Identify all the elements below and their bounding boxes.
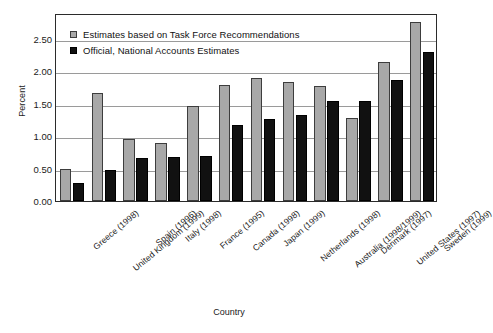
y-tick-label: 2.50 xyxy=(16,35,52,45)
bar-series-b xyxy=(168,157,180,201)
bar-series-b xyxy=(359,101,371,201)
bar-series-b xyxy=(105,170,117,201)
bar-series-a xyxy=(155,143,167,201)
bar-group xyxy=(314,15,339,201)
bar-series-a xyxy=(314,86,326,201)
y-tick-label: 0.50 xyxy=(16,165,52,175)
bar-series-a xyxy=(123,139,135,201)
bar-series-b xyxy=(264,119,276,201)
bar-series-b xyxy=(423,52,435,201)
legend-item-series-b: Official, National Accounts Estimates xyxy=(70,45,299,56)
bar-series-a xyxy=(60,169,72,201)
chart-legend: Estimates based on Task Force Recommenda… xyxy=(70,29,299,61)
bar-series-b xyxy=(327,101,339,201)
bar-group xyxy=(378,15,403,201)
bar-series-a xyxy=(378,62,390,201)
x-axis-title: Country xyxy=(0,307,458,317)
bar-series-b xyxy=(296,115,308,201)
bar-series-a xyxy=(92,93,104,201)
legend-label-series-a: Estimates based on Task Force Recommenda… xyxy=(83,29,299,40)
y-tick-label: 1.50 xyxy=(16,100,52,110)
y-tick-label: 1.00 xyxy=(16,132,52,142)
plot-area: Estimates based on Task Force Recommenda… xyxy=(55,14,437,202)
x-axis-tick-labels: Greece (1998)United Kingdom (1999)Spain … xyxy=(55,202,437,297)
bar-series-a xyxy=(346,118,358,201)
bar-series-b xyxy=(200,156,212,201)
legend-swatch-icon-series-b xyxy=(70,47,77,54)
bar-series-a xyxy=(410,22,422,201)
y-axis-tick-labels: 0.000.501.001.502.002.50 xyxy=(0,0,52,333)
bar-series-a xyxy=(251,78,263,201)
bar-group xyxy=(346,15,371,201)
bar-series-b xyxy=(136,158,148,201)
bar-series-a xyxy=(187,106,199,201)
legend-item-series-a: Estimates based on Task Force Recommenda… xyxy=(70,29,299,40)
bar-group xyxy=(410,15,435,201)
y-tick-label: 2.00 xyxy=(16,67,52,77)
legend-label-series-b: Official, National Accounts Estimates xyxy=(83,45,239,56)
bar-series-a xyxy=(219,85,231,201)
legend-swatch-icon-series-a xyxy=(70,31,77,38)
bar-series-b xyxy=(73,183,85,201)
bar-series-b xyxy=(232,125,244,201)
bar-series-b xyxy=(391,80,403,201)
x-tick-label: Greece (1998) xyxy=(91,208,140,252)
bar-series-a xyxy=(283,82,295,201)
y-tick-label: 0.00 xyxy=(16,197,52,207)
